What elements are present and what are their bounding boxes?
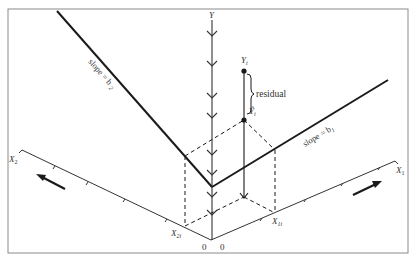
observed-point [241,68,246,73]
slope-b1-line [212,80,388,187]
x1-axis [211,161,398,240]
observed-point-label: Yi [241,55,248,66]
regression-plane-diagram: Y X2 X1 0 0 slope = b 2 slope = b1 [0,0,412,261]
x1-direction-arrow-icon [353,181,382,195]
origin-label-left: 0 [202,242,207,252]
observation-drop-line [240,72,248,198]
x2-direction-arrow-icon [36,174,65,189]
y-axis [207,20,217,240]
x2-axis [19,150,211,240]
x2i-label: X2i [170,228,182,239]
slope-b2-line [57,11,212,187]
x1-axis-label: X1 [395,165,405,176]
y-axis-label: Y [209,10,215,20]
predicted-point [241,117,246,122]
slope-b1-label: slope = b1 [301,122,336,149]
residual-label: residual [256,89,286,99]
x2-axis-label: X2 [8,154,18,165]
predicted-point-label: Ŷi [249,106,256,117]
diagram-frame [8,9,408,253]
origin-label-right: 0 [220,242,225,252]
x1i-label: X1i [271,216,283,227]
regression-lines [57,11,388,187]
